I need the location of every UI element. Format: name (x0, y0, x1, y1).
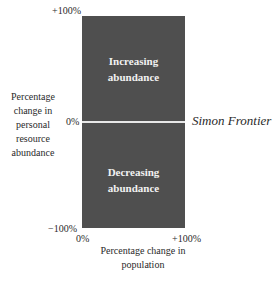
region-label-line: abundance (82, 180, 185, 196)
region-label-line: Decreasing (82, 164, 185, 180)
y-axis-label-line: personal (2, 118, 64, 132)
x-axis-label: Percentage change in population (82, 244, 204, 272)
region-increasing-abundance: Increasing abundance (82, 53, 185, 85)
x-tick-right: +100% (172, 233, 201, 244)
simon-frontier-line (82, 121, 185, 123)
y-axis-label-line: abundance (2, 146, 64, 160)
y-tick-top: +100% (52, 5, 81, 16)
y-tick-bottom: −100% (48, 223, 77, 234)
simon-frontier-label: Simon Frontier (192, 113, 271, 129)
y-axis-label-line: Percentage (2, 90, 64, 104)
y-axis-label: Percentage change in personal resource a… (2, 90, 64, 160)
x-axis-label-line: population (82, 258, 204, 272)
region-label-line: Increasing (82, 53, 185, 69)
region-decreasing-abundance: Decreasing abundance (82, 164, 185, 196)
y-tick-zero: 0% (66, 116, 79, 127)
y-axis-label-line: change in (2, 104, 64, 118)
y-axis-label-line: resource (2, 132, 64, 146)
x-tick-left: 0% (76, 233, 89, 244)
region-label-line: abundance (82, 69, 185, 85)
x-axis-label-line: Percentage change in (82, 244, 204, 258)
